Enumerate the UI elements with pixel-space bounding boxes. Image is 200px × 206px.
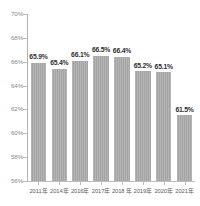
bar[interactable] bbox=[177, 115, 193, 181]
x-axis-line bbox=[27, 181, 195, 182]
y-axis-tick-mark bbox=[23, 109, 27, 110]
bar[interactable] bbox=[156, 72, 172, 181]
y-axis-tick-mark bbox=[23, 181, 27, 182]
bar-value-label: 66.4% bbox=[105, 47, 139, 55]
x-axis-tick-mark bbox=[185, 182, 186, 185]
x-axis-tick-mark bbox=[164, 182, 165, 185]
bar-slot[interactable]: 65.4% bbox=[52, 14, 68, 181]
bar[interactable] bbox=[72, 61, 88, 181]
bar-slot[interactable]: 66.1% bbox=[72, 14, 88, 181]
bar-group: 65.9%65.4%66.1%66.5%66.4%65.2%65.1%61.5% bbox=[28, 14, 195, 181]
bar[interactable] bbox=[93, 56, 109, 181]
bar-slot[interactable]: 66.4% bbox=[114, 14, 130, 181]
x-axis-tick-mark bbox=[80, 182, 81, 185]
bar[interactable] bbox=[52, 69, 68, 181]
bar-slot[interactable]: 61.5% bbox=[177, 14, 193, 181]
x-axis-tick-mark bbox=[122, 182, 123, 185]
y-axis-tick-mark bbox=[23, 133, 27, 134]
bar-chart: 56%58%60%62%64%66%68%70% 65.9%65.4%66.1%… bbox=[0, 0, 200, 206]
x-axis-tick-mark bbox=[59, 182, 60, 185]
y-axis-tick-mark bbox=[23, 14, 27, 15]
bar-slot[interactable]: 66.5% bbox=[93, 14, 109, 181]
bar-value-label: 65.4% bbox=[43, 59, 77, 67]
x-axis-tick-mark bbox=[38, 182, 39, 185]
bar-value-label: 65.1% bbox=[147, 63, 181, 71]
bar[interactable] bbox=[31, 63, 47, 181]
bar-slot[interactable]: 65.2% bbox=[135, 14, 151, 181]
x-axis-tick-mark bbox=[143, 182, 144, 185]
y-axis-tick-mark bbox=[23, 62, 27, 63]
bar-slot[interactable]: 65.9% bbox=[31, 14, 47, 181]
y-axis-tick-mark bbox=[23, 86, 27, 87]
y-axis-tick-mark bbox=[23, 38, 27, 39]
x-axis-tick-mark bbox=[101, 182, 102, 185]
bar[interactable] bbox=[135, 71, 151, 181]
bar-value-label: 61.5% bbox=[168, 106, 200, 114]
bar[interactable] bbox=[114, 57, 130, 181]
bar-slot[interactable]: 65.1% bbox=[156, 14, 172, 181]
x-axis-tick-label: 2021年 bbox=[171, 187, 198, 195]
y-axis-tick-mark bbox=[23, 157, 27, 158]
